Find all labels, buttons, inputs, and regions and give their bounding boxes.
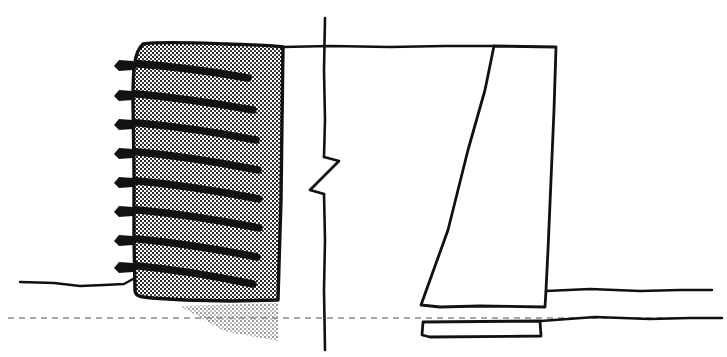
break-line-lower-segment: [324, 194, 325, 350]
drawing-background: [0, 0, 727, 357]
left-anchored-wall: [114, 42, 283, 301]
cross-section-drawing: [0, 0, 727, 357]
break-line-upper-segment: [324, 18, 325, 157]
engineering-drawing-canvas: [0, 0, 727, 357]
right-wall-footing: [422, 321, 541, 337]
top-grade-line: [282, 46, 494, 47]
